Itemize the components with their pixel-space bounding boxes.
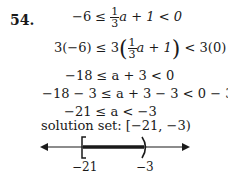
step-2-inner: a + 1	[137, 40, 172, 55]
number-line-graphic	[40, 136, 190, 162]
step-1: −6 ≤ 13a + 1 < 0	[72, 6, 182, 29]
tick-label-left: −21	[72, 160, 97, 174]
step-5: −21 ≤ a < −3	[64, 104, 157, 119]
step-4: −18 − 3 ≤ a + 3 − 3 < 0 − 3	[42, 86, 228, 101]
step-1-right: a + 1 < 0	[119, 9, 182, 24]
right-arrow-icon	[182, 143, 190, 151]
problem-number: 54.	[10, 12, 34, 28]
step-1-left: −6 ≤	[72, 9, 110, 24]
number-line: −21 −3	[40, 136, 190, 176]
step-2-right: < 3(0)	[180, 40, 226, 55]
tick-label-right: −3	[136, 160, 154, 174]
left-paren: (	[119, 36, 128, 61]
step-2-left: 3(−6) ≤ 3	[54, 40, 119, 55]
step-2: 3(−6) ≤ 3(13a + 1) < 3(0)	[54, 37, 226, 60]
fraction: 13	[128, 37, 137, 60]
left-arrow-icon	[40, 143, 48, 151]
solution-set: solution set: [−21, −3)	[41, 118, 191, 133]
step-3: −18 ≤ a + 3 < 0	[65, 68, 174, 83]
frac-denominator: 3	[128, 49, 137, 60]
fraction: 13	[110, 6, 119, 29]
frac-denominator: 3	[110, 18, 119, 29]
